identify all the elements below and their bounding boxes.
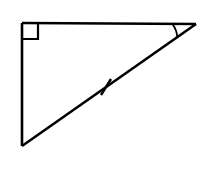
right-angle-square-marker-icon — [22, 23, 38, 39]
geometry-figure-canvas — [0, 0, 209, 169]
angle-arc-icon — [172, 24, 177, 39]
hypotenuse — [22, 24, 196, 146]
triangle-diagram-svg — [0, 0, 209, 169]
top-horizontal-leg — [22, 23, 196, 24]
hypotenuse-congruence-tick-icon — [101, 79, 111, 95]
